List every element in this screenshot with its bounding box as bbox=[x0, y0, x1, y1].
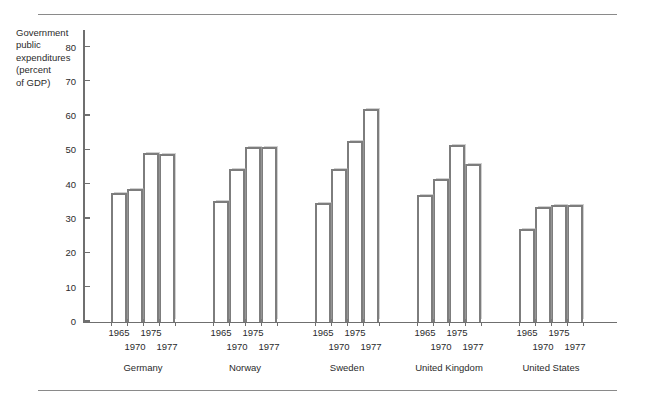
x-tick bbox=[111, 322, 112, 326]
y-tick-label: 80 bbox=[65, 41, 76, 52]
bar[interactable] bbox=[315, 203, 331, 321]
country-label: Sweden bbox=[330, 362, 364, 373]
y-tick-label: 70 bbox=[65, 75, 76, 86]
bar[interactable] bbox=[417, 195, 433, 321]
x-tick bbox=[449, 322, 450, 326]
y-tick-label: 30 bbox=[65, 212, 76, 223]
year-label: 1965 bbox=[210, 327, 231, 338]
bar-group bbox=[213, 31, 277, 322]
country-label: Norway bbox=[229, 362, 261, 373]
bars bbox=[417, 31, 481, 322]
bar[interactable] bbox=[245, 147, 261, 321]
year-label: 1977 bbox=[564, 341, 585, 352]
x-tick bbox=[331, 322, 332, 326]
bar[interactable] bbox=[519, 229, 535, 322]
y-axis-line bbox=[83, 30, 85, 323]
plot-area: 01020304050607080 bbox=[83, 30, 617, 323]
x-tick bbox=[583, 322, 584, 326]
bottom-rule bbox=[38, 390, 617, 391]
x-tick bbox=[245, 322, 246, 326]
bar[interactable] bbox=[111, 193, 127, 322]
x-tick bbox=[261, 322, 262, 326]
bar[interactable] bbox=[213, 201, 229, 321]
year-label: 1975 bbox=[344, 327, 365, 338]
bars bbox=[519, 31, 583, 322]
x-tick bbox=[481, 322, 482, 326]
x-tick bbox=[433, 322, 434, 326]
x-tick bbox=[347, 322, 348, 326]
y-tick-40: 40 bbox=[83, 183, 90, 184]
bars bbox=[111, 31, 175, 322]
year-label: 1975 bbox=[548, 327, 569, 338]
x-tick bbox=[175, 322, 176, 326]
x-tick bbox=[551, 322, 552, 326]
year-label: 1965 bbox=[516, 327, 537, 338]
y-tick-label: 20 bbox=[65, 247, 76, 258]
year-label: 1977 bbox=[360, 341, 381, 352]
bars bbox=[315, 31, 379, 322]
y-tick-60: 60 bbox=[83, 114, 90, 115]
y-tick-20: 20 bbox=[83, 252, 90, 253]
figure: Government public expenditures (percent … bbox=[0, 0, 655, 407]
x-tick bbox=[535, 322, 536, 326]
y-tick-label: 40 bbox=[65, 178, 76, 189]
bar[interactable] bbox=[465, 164, 481, 322]
year-label: 1970 bbox=[124, 341, 145, 352]
year-label: 1977 bbox=[462, 341, 483, 352]
y-tick-label: 0 bbox=[71, 315, 76, 326]
y-tick-70: 70 bbox=[83, 80, 90, 81]
bar[interactable] bbox=[331, 169, 347, 322]
x-axis-line bbox=[83, 322, 617, 324]
bars bbox=[213, 31, 277, 322]
year-label: 1965 bbox=[312, 327, 333, 338]
y-tick-label: 60 bbox=[65, 110, 76, 121]
y-tick-80: 80 bbox=[83, 46, 90, 47]
country-label: United States bbox=[522, 362, 579, 373]
bar[interactable] bbox=[261, 147, 277, 322]
bar[interactable] bbox=[127, 189, 143, 321]
country-label: Germany bbox=[123, 362, 162, 373]
y-tick-50: 50 bbox=[83, 149, 90, 150]
y-tick-10: 10 bbox=[83, 286, 90, 287]
y-tick-0: 0 bbox=[83, 320, 90, 321]
bar-group bbox=[519, 31, 583, 322]
bar[interactable] bbox=[567, 205, 583, 322]
bar-group bbox=[111, 31, 175, 322]
x-tick bbox=[159, 322, 160, 326]
country-label: United Kingdom bbox=[415, 362, 483, 373]
bar[interactable] bbox=[229, 169, 245, 322]
x-tick bbox=[229, 322, 230, 326]
year-label: 1975 bbox=[140, 327, 161, 338]
year-label: 1970 bbox=[532, 341, 553, 352]
bar[interactable] bbox=[551, 205, 567, 322]
y-tick-label: 50 bbox=[65, 144, 76, 155]
x-tick bbox=[213, 322, 214, 326]
x-tick bbox=[315, 322, 316, 326]
bar[interactable] bbox=[159, 154, 175, 321]
bar[interactable] bbox=[363, 109, 379, 322]
year-label: 1965 bbox=[108, 327, 129, 338]
y-tick-label: 10 bbox=[65, 281, 76, 292]
year-label: 1977 bbox=[258, 341, 279, 352]
x-tick bbox=[519, 322, 520, 326]
bar[interactable] bbox=[433, 179, 449, 321]
bar[interactable] bbox=[449, 145, 465, 322]
x-tick bbox=[417, 322, 418, 326]
x-tick bbox=[363, 322, 364, 326]
x-tick bbox=[277, 322, 278, 326]
x-tick bbox=[379, 322, 380, 326]
year-label: 1970 bbox=[328, 341, 349, 352]
year-label: 1970 bbox=[226, 341, 247, 352]
year-label: 1975 bbox=[242, 327, 263, 338]
bar[interactable] bbox=[535, 207, 551, 321]
bar-group bbox=[315, 31, 379, 322]
x-tick bbox=[567, 322, 568, 326]
bar[interactable] bbox=[143, 153, 159, 321]
bar-group bbox=[417, 31, 481, 322]
year-label: 1975 bbox=[446, 327, 467, 338]
year-label: 1970 bbox=[430, 341, 451, 352]
top-rule bbox=[38, 14, 617, 15]
x-tick bbox=[127, 322, 128, 326]
x-tick bbox=[465, 322, 466, 326]
bar[interactable] bbox=[347, 141, 363, 321]
